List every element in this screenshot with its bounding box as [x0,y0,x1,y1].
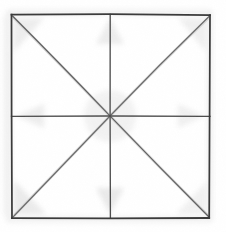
sketch-canvas: Hand-drawn square with cross and diagona… [0,0,226,232]
square-with-diagonals-drawing: Hand-drawn square with cross and diagona… [0,0,226,232]
paper-grain-overlay [0,0,226,232]
